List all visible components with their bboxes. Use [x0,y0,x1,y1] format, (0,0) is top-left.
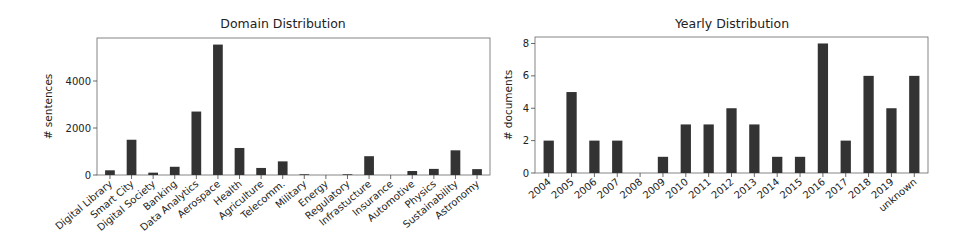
bar [343,174,353,175]
bar [658,157,668,173]
bar [612,141,622,173]
x-tick-label: 2005 [549,176,576,201]
x-tick-label: 2004 [526,176,553,201]
bar [566,92,576,173]
x-tick-label: 2014 [755,176,782,201]
x-tick-label: 2016 [801,176,828,201]
x-tick-label: 2013 [732,176,759,201]
bar [299,174,309,175]
bar [795,157,805,173]
bar [429,169,439,175]
bar [213,45,223,175]
y-tick-label: 4000 [66,76,91,87]
bar [704,124,714,173]
bar [841,141,851,173]
y-tick-label: 0 [85,170,91,181]
yearly-chart: Yearly Distribution02468# documents20042… [502,16,928,214]
bar [278,161,288,175]
y-tick-label: 6 [523,70,529,81]
bar [472,169,482,175]
bar [772,157,782,173]
bar [256,168,266,175]
x-tick-label: 2018 [846,176,873,201]
bar [544,141,554,173]
x-tick-label: 2008 [618,176,645,201]
chart-title: Domain Distribution [220,16,345,31]
bar [681,124,691,173]
x-tick-label: 2006 [572,176,599,201]
bar [886,108,896,173]
bar [749,124,759,173]
chart-title: Yearly Distribution [674,16,789,31]
bar [407,171,417,175]
bar [148,173,158,175]
x-tick-label: 2012 [709,176,736,201]
bar [909,76,919,173]
y-tick-label: 2 [523,135,529,146]
axes-frame [97,38,490,175]
bar [818,43,828,173]
x-tick-label: 2017 [823,176,850,201]
x-tick-label: 2009 [641,176,668,201]
y-tick-label: 2000 [66,123,91,134]
y-axis-label: # documents [502,70,514,141]
bar [170,167,180,175]
bar [726,108,736,173]
domain-chart: Domain Distribution020004000# sentencesD… [42,16,490,233]
bar [589,141,599,173]
x-tick-label: 2010 [664,176,691,201]
x-tick-label: 2011 [686,176,713,201]
bar [127,140,137,175]
bar [105,170,115,175]
bar [451,150,461,175]
bar [863,76,873,173]
y-tick-label: 8 [523,38,529,49]
chart-canvas: Domain Distribution020004000# sentencesD… [0,0,971,252]
x-tick-label: 2007 [595,176,622,201]
y-tick-label: 0 [523,168,529,179]
bar [364,156,374,175]
bar [191,112,201,175]
y-axis-label: # sentences [42,74,54,140]
y-tick-label: 4 [523,103,529,114]
x-tick-label: 2015 [778,176,805,201]
bar [235,148,245,175]
